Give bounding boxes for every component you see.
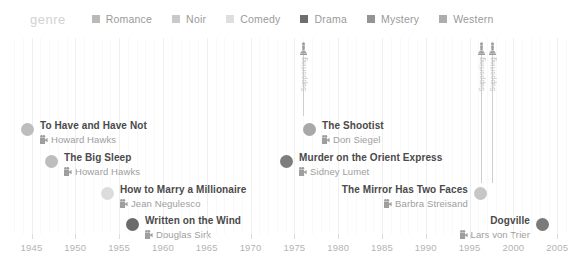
axis-tick-mark (294, 234, 295, 239)
axis-tick-mark (75, 234, 76, 239)
legend-item-list: RomanceNoirComedyDramaMysteryWestern (92, 13, 514, 25)
film-title: To Have and Have Not (40, 120, 147, 131)
axis-tick-mark (119, 234, 120, 239)
legend-swatch-icon (367, 15, 375, 23)
axis-tick-label: 1945 (21, 242, 43, 253)
gridline (513, 38, 514, 234)
film-director: Howard Hawks (51, 134, 116, 146)
axis-tick-label: 1960 (152, 242, 174, 253)
oscar-statuette-icon (299, 42, 308, 55)
film-genre-dot[interactable] (101, 187, 114, 200)
film-text-block: To Have and Have NotHoward Hawks (40, 114, 147, 146)
award-marker[interactable]: Supporting (477, 42, 486, 91)
film-title: The Shootist (322, 120, 384, 131)
film-title: Dogville (490, 215, 530, 226)
legend-swatch-icon (92, 15, 100, 23)
film-title: The Mirror Has Two Faces (342, 184, 468, 195)
movie-camera-icon (120, 199, 128, 208)
legend-swatch-icon (300, 15, 308, 23)
award-marker[interactable]: Supporting (299, 42, 308, 91)
legend-swatch-icon (226, 15, 234, 23)
gridline (259, 38, 260, 234)
film-text-block: The Mirror Has Two FacesBarbra Streisand (342, 178, 468, 210)
axis-tick-label: 1955 (108, 242, 130, 253)
legend-item-mystery[interactable]: Mystery (367, 13, 419, 25)
film-director-row: Don Siegel (322, 134, 384, 146)
gridline (14, 38, 15, 234)
film-genre-dot[interactable] (303, 123, 316, 136)
legend-item-label: Comedy (240, 13, 280, 25)
legend-item-label: Mystery (381, 13, 419, 25)
legend-item-label: Noir (186, 13, 206, 25)
legend-swatch-icon (439, 15, 447, 23)
film-genre-dot[interactable] (45, 155, 58, 168)
legend-item-label: Romance (106, 13, 152, 25)
axis-tick-mark (382, 234, 383, 239)
gridline (251, 38, 252, 234)
axis-tick-label: 1985 (371, 242, 393, 253)
gridline (268, 38, 269, 234)
gridline (286, 38, 287, 234)
axis-tick-label: 1990 (415, 242, 437, 253)
film-entry[interactable]: The Mirror Has Two FacesBarbra Streisand (342, 178, 487, 210)
gridline (566, 38, 567, 234)
legend-item-noir[interactable]: Noir (172, 13, 206, 25)
film-text-block: Murder on the Orient ExpressSidney Lumet (299, 146, 442, 178)
film-title: Written on the Wind (145, 215, 241, 226)
award-label: Supporting (300, 57, 307, 91)
oscar-statuette-icon (488, 42, 497, 55)
legend-item-romance[interactable]: Romance (92, 13, 152, 25)
axis-tick-label: 2005 (546, 242, 568, 253)
film-director: Don Siegel (333, 134, 380, 146)
gridline (505, 38, 506, 234)
legend-item-comedy[interactable]: Comedy (226, 13, 280, 25)
axis-tick-mark (32, 234, 33, 239)
legend-item-drama[interactable]: Drama (300, 13, 347, 25)
film-director: Barbra Streisand (395, 198, 468, 210)
movie-camera-icon (322, 135, 330, 144)
legend-title: genre (30, 12, 66, 27)
gridline (277, 38, 278, 234)
film-entry[interactable]: The Big SleepHoward Hawks (45, 146, 140, 178)
film-text-block: How to Marry a MillionaireJean Negulesco (120, 178, 247, 210)
axis-tick-mark (557, 234, 558, 239)
film-director: Sidney Lumet (310, 166, 369, 178)
genre-legend: genre RomanceNoirComedyDramaMysteryWeste… (0, 0, 580, 38)
axis-tick-label: 1950 (64, 242, 86, 253)
gridline (549, 38, 550, 234)
film-entry[interactable]: The ShootistDon Siegel (303, 114, 384, 146)
award-label: Supporting (478, 57, 485, 91)
film-director-row: Barbra Streisand (342, 198, 468, 210)
film-genre-dot[interactable] (536, 218, 549, 231)
film-text-block: The Big SleepHoward Hawks (64, 146, 140, 178)
film-entry[interactable]: How to Marry a MillionaireJean Negulesco (101, 178, 247, 210)
film-director-row: Howard Hawks (40, 134, 147, 146)
movie-camera-icon (384, 199, 392, 208)
film-entry[interactable]: To Have and Have NotHoward Hawks (21, 114, 147, 146)
timeline-plot-area: SupportingSupportingSupporting To Have a… (0, 38, 580, 234)
film-director: Howard Hawks (75, 166, 140, 178)
legend-item-western[interactable]: Western (439, 13, 493, 25)
movie-camera-icon (40, 135, 48, 144)
legend-item-label: Western (453, 13, 493, 25)
gridline (557, 38, 558, 234)
axis-tick-label: 1970 (240, 242, 262, 253)
axis-tick-label: 1995 (459, 242, 481, 253)
film-text-block: The ShootistDon Siegel (322, 114, 384, 146)
film-title: The Big Sleep (64, 152, 131, 163)
award-marker[interactable]: Supporting (488, 42, 497, 91)
film-title: How to Marry a Millionaire (120, 184, 247, 195)
film-genre-dot[interactable] (21, 123, 34, 136)
film-genre-dot[interactable] (280, 155, 293, 168)
axis-tick-mark (426, 234, 427, 239)
film-genre-dot[interactable] (126, 218, 139, 231)
film-title: Murder on the Orient Express (299, 152, 442, 163)
film-entry[interactable]: Murder on the Orient ExpressSidney Lumet (280, 146, 442, 178)
axis-tick-mark (338, 234, 339, 239)
film-director-row: Howard Hawks (64, 166, 140, 178)
axis-tick-label: 1980 (327, 242, 349, 253)
movie-camera-icon (64, 167, 72, 176)
film-genre-dot[interactable] (474, 187, 487, 200)
award-label: Supporting (489, 57, 496, 91)
legend-swatch-icon (172, 15, 180, 23)
